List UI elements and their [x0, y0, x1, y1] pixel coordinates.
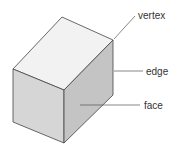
vertex-label: vertex	[138, 10, 165, 21]
cuboid-diagram: vertex edge face	[0, 0, 183, 154]
edge-label: edge	[146, 66, 169, 77]
face-label: face	[144, 100, 163, 111]
vertex-leader	[114, 16, 135, 39]
